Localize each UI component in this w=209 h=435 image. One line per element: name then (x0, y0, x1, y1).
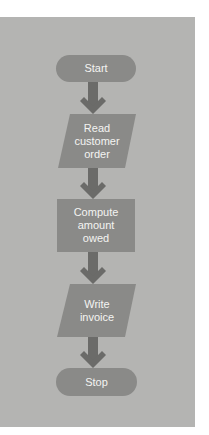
arrow-start-to-read (80, 82, 106, 114)
arrow-write-to-stop (80, 337, 106, 368)
compute-amount-label: Compute amount owed (57, 199, 135, 252)
start-label: Start (56, 55, 136, 82)
write-invoice-label: Write invoice (60, 284, 134, 337)
arrow-read-to-compute (80, 168, 106, 199)
stop-label: Stop (56, 368, 137, 396)
read-order-label: Read customer order (60, 114, 134, 168)
arrow-compute-to-write (80, 252, 106, 284)
